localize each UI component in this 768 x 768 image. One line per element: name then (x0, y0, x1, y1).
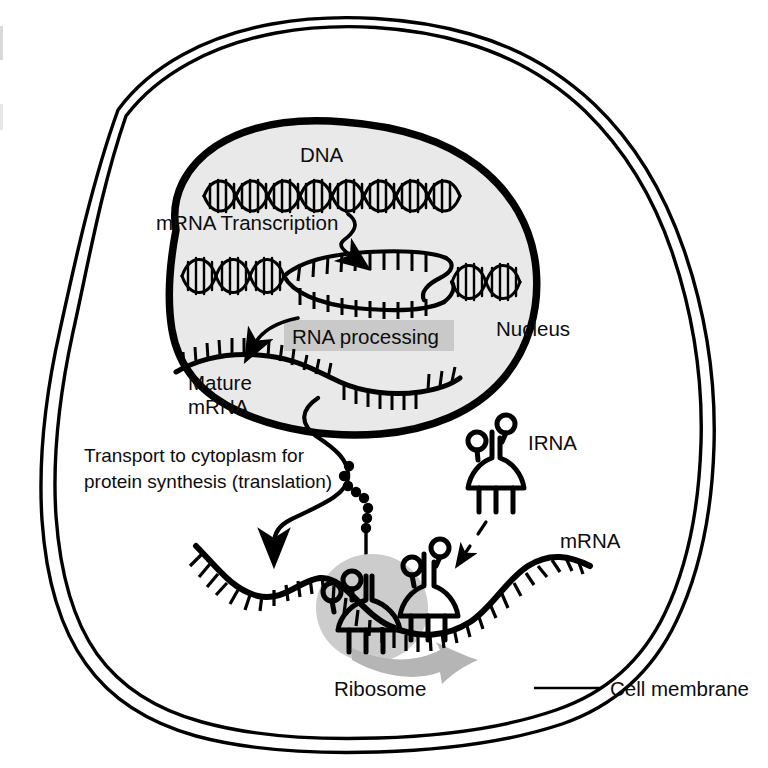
label-mature-mrna-line2: mRNA (188, 395, 249, 418)
label-mrna: mRNA (560, 529, 621, 552)
label-rna-processing: RNA processing (292, 325, 439, 348)
label-dna: DNA (300, 143, 344, 166)
trna-free (468, 415, 524, 512)
label-transport-line2: protein synthesis (translation) (84, 471, 332, 492)
label-cell-membrane: Cell membrane (610, 677, 749, 700)
label-trna: IRNA (528, 431, 577, 454)
figure-canvas: DNA mRNA Transcription RNA processing Nu… (0, 0, 768, 768)
trna-entry-arrow (462, 522, 486, 558)
label-nucleus: Nucleus (496, 317, 570, 340)
cell-diagram: DNA mRNA Transcription RNA processing Nu… (0, 0, 768, 768)
label-mrna-transcription: mRNA Transcription (156, 211, 338, 234)
label-transport-line1: Transport to cytoplasm for (84, 445, 305, 466)
label-ribosome: Ribosome (334, 677, 426, 700)
label-mature-mrna-line1: Mature (188, 371, 252, 394)
